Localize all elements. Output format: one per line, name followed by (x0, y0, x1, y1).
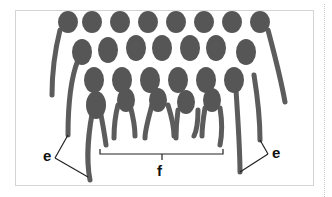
label-e-left: e (43, 148, 51, 163)
macrame-illustration (0, 0, 332, 197)
label-f: f (157, 163, 162, 178)
label-e-right: e (272, 145, 280, 160)
